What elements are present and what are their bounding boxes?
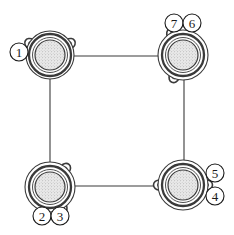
callout-1: 1 [10, 43, 28, 61]
connector-hub [35, 172, 65, 202]
callout-number: 5 [212, 166, 219, 181]
callout-number: 4 [212, 189, 219, 204]
callout-number: 6 [189, 16, 196, 31]
connector-hub [168, 170, 198, 200]
diagram-canvas: 1762354 [0, 0, 234, 235]
callout-number: 7 [171, 16, 178, 31]
connector-bottom-right [154, 160, 213, 210]
assembly-diagram: 1762354 [0, 0, 234, 235]
callout-5: 5 [206, 164, 224, 182]
connector-hub [168, 40, 198, 70]
connector-bottom-left [25, 161, 75, 215]
connector-top-right [158, 27, 208, 85]
connector-top-left [23, 31, 77, 79]
callout-7: 7 [165, 14, 183, 32]
callout-number: 2 [39, 209, 46, 224]
connector-hub [35, 40, 65, 70]
callout-4: 4 [206, 187, 224, 205]
callout-number: 3 [57, 209, 64, 224]
callout-number: 1 [16, 45, 23, 60]
callout-3: 3 [51, 207, 69, 225]
callout-6: 6 [183, 14, 201, 32]
callout-2: 2 [33, 207, 51, 225]
